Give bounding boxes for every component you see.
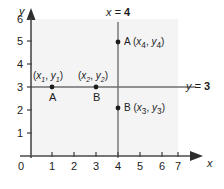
p2-x-sub: 2	[86, 76, 90, 83]
p3-x-sub: 3	[142, 106, 147, 116]
point-marker-p2	[94, 85, 99, 90]
point-marker-p3	[116, 106, 121, 111]
origin-tick-label: 0	[18, 161, 24, 172]
p3-name: B	[124, 102, 131, 113]
p1-x-sub: 1	[41, 76, 45, 83]
point-marker-p1	[50, 85, 55, 90]
point-label-p3: B (x3, y3)	[124, 103, 165, 115]
y-tick-label-5: 5	[17, 36, 23, 47]
point-name-label-p1: A	[49, 92, 56, 103]
p4-name: A	[124, 36, 130, 47]
label-x-equals-4: x = 4	[106, 7, 130, 18]
label-y-equals-3: y = 3	[186, 81, 210, 92]
x-tick-label-6: 6	[159, 161, 165, 172]
p1-y-sub: 1	[56, 76, 60, 83]
y-tick-label-3: 3	[17, 82, 23, 93]
y-tick-label-2: 2	[17, 105, 23, 116]
label-y-equals-3-eq: =	[192, 80, 205, 92]
plot-canvas	[0, 0, 224, 189]
x-tick-label-4: 4	[115, 161, 121, 172]
point-name-label-p2: B	[93, 92, 100, 103]
point-coord-label-p1: (x1, y1)	[33, 71, 63, 81]
x-tick-label-1: 1	[49, 161, 55, 172]
point-label-p4: A (x4, y4)	[124, 37, 164, 49]
y-tick-label-6: 6	[17, 14, 23, 25]
x-tick-label-2: 2	[71, 161, 77, 172]
p3-y-sub: 3	[157, 106, 162, 116]
x-tick-label-3: 3	[93, 161, 99, 172]
p2-y-sub: 2	[101, 76, 105, 83]
y-axis-arrow-icon	[27, 8, 36, 20]
y-tick-label-1: 1	[17, 128, 23, 139]
coordinate-plane-figure: y x 0 1 2 3 4 5 6 1 2 3 4 5 6 7 x = 4 y …	[0, 0, 224, 189]
x-axis-name: x	[207, 158, 213, 169]
x-tick-label-7: 7	[175, 161, 181, 172]
x-axis-arrow-icon	[190, 151, 203, 161]
point-coord-label-p2: (x2, y2)	[78, 71, 108, 81]
y-tick-label-4: 4	[17, 59, 23, 70]
label-x-equals-4-val: 4	[124, 6, 130, 18]
x-tick-label-5: 5	[137, 161, 143, 172]
label-x-equals-4-eq: =	[112, 6, 125, 18]
p4-y-sub: 4	[156, 40, 161, 50]
p4-x-sub: 4	[141, 40, 146, 50]
label-y-equals-3-val: 3	[204, 80, 210, 92]
point-marker-p4	[116, 40, 121, 45]
